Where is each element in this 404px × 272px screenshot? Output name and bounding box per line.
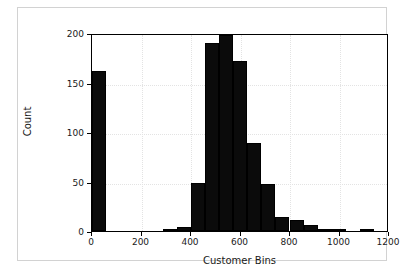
gridline-vertical	[340, 35, 342, 231]
y-axis-label: Count	[22, 107, 33, 137]
figure-frame: 020040060080010001200 050100150200 Custo…	[17, 7, 387, 261]
histogram-bar	[360, 229, 374, 231]
x-tick-label: 400	[170, 237, 210, 248]
x-tick-mark	[141, 232, 142, 236]
histogram-bar	[191, 183, 205, 231]
x-tick-mark	[190, 232, 191, 236]
y-tick-mark	[87, 232, 91, 233]
x-tick-mark	[240, 232, 241, 236]
x-tick-mark	[339, 232, 340, 236]
histogram-bar	[290, 220, 304, 231]
histogram-bar	[163, 229, 177, 231]
x-tick-label: 1200	[368, 237, 404, 248]
histogram-bar	[247, 143, 261, 231]
y-tick-label: 0	[50, 228, 84, 237]
y-tick-mark	[87, 133, 91, 134]
gridline-vertical	[290, 35, 292, 231]
histogram-bar	[92, 71, 106, 231]
gridline-vertical	[142, 35, 144, 231]
y-tick-mark	[87, 183, 91, 184]
y-tick-label: 100	[50, 129, 84, 138]
histogram-bar	[233, 61, 247, 231]
histogram-bar	[219, 35, 233, 231]
x-tick-mark	[289, 232, 290, 236]
x-tick-label: 600	[220, 237, 260, 248]
y-tick-mark	[87, 84, 91, 85]
x-tick-mark	[91, 232, 92, 236]
x-tick-mark	[388, 232, 389, 236]
x-tick-label: 200	[121, 237, 161, 248]
histogram-bar	[304, 225, 318, 231]
x-tick-label: 1000	[319, 237, 359, 248]
histogram-bar	[177, 227, 191, 231]
x-axis-label: Customer Bins	[91, 255, 388, 266]
histogram-bar	[261, 184, 275, 231]
y-tick-mark	[87, 34, 91, 35]
y-tick-label: 150	[50, 80, 84, 89]
histogram-bar	[205, 43, 219, 231]
plot-area	[91, 34, 388, 232]
y-tick-label: 200	[50, 30, 84, 39]
histogram-bar	[318, 229, 332, 231]
x-tick-label: 0	[71, 237, 111, 248]
x-tick-label: 800	[269, 237, 309, 248]
histogram-bar	[332, 229, 346, 231]
y-tick-label: 50	[50, 179, 84, 188]
histogram-bar	[275, 217, 289, 231]
